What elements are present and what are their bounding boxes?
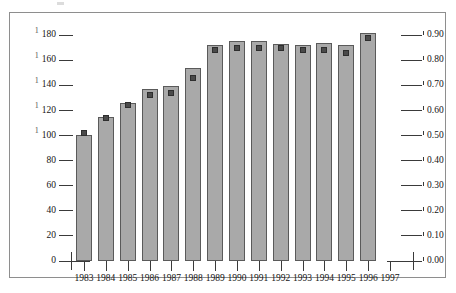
x-axis-tick-label: 1983	[74, 274, 93, 284]
y-axis-right-tick-label: 0.40	[427, 156, 444, 166]
y-axis-right-tick-label: 0.50	[427, 131, 444, 141]
data-point-marker	[365, 35, 371, 41]
y-axis-right-tick-mark	[401, 110, 422, 111]
y-axis-left-tick-label: 100	[42, 131, 56, 141]
y-axis-right-tick-mark	[401, 235, 422, 236]
y-axis-right-tick-mark	[401, 60, 422, 61]
x-axis-tick-label: 1994	[315, 274, 334, 284]
bar	[120, 103, 136, 261]
data-point-marker	[343, 50, 349, 56]
y-axis-right-tick-mark	[401, 85, 422, 86]
x-axis-tick-mark	[368, 261, 369, 271]
y-axis-right-tick-label: 0.20	[427, 206, 444, 216]
y-axis-right-tick-nub	[423, 157, 424, 161]
x-axis-tick-mark	[193, 261, 194, 271]
data-point-marker	[168, 90, 174, 96]
bar	[295, 45, 311, 261]
data-point-marker	[190, 75, 196, 81]
y-axis-right-tick-nub	[423, 257, 424, 261]
data-point-marker	[103, 115, 109, 121]
y-axis-left-tick-label: 120	[42, 106, 56, 116]
y-axis-left-tick-label: 0	[51, 256, 56, 266]
bar	[316, 43, 332, 261]
y-axis-left-tick-mark	[59, 235, 73, 236]
bar	[273, 44, 289, 261]
y-axis-right-tick-mark	[401, 135, 422, 136]
y-axis-left-tick-prefix: 1	[35, 27, 39, 35]
y-axis-right-tick-mark	[401, 35, 422, 36]
y-axis-left-tick-mark	[59, 210, 73, 211]
x-axis-tick-mark	[237, 261, 238, 271]
y-axis-right-tick-mark	[401, 160, 422, 161]
y-axis-right-tick-nub	[423, 56, 424, 60]
y-axis-right-tick-nub	[423, 207, 424, 211]
x-axis-tick-mark	[128, 261, 129, 271]
x-axis-tick-mark	[106, 261, 107, 271]
y-axis-right-tick-nub	[423, 232, 424, 236]
y-axis-left-tick-mark	[59, 185, 73, 186]
x-axis-tick-label: 1990	[228, 274, 247, 284]
data-point-marker	[278, 45, 284, 51]
x-axis-tick-label: 1987	[162, 274, 181, 284]
data-point-marker	[125, 102, 131, 108]
x-axis-tick-mark	[346, 261, 347, 271]
y-axis-left-tick-mark	[59, 160, 73, 161]
bar	[251, 41, 267, 261]
x-axis-tick-label: 1992	[271, 274, 290, 284]
y-axis-left-tick-label: 180	[42, 30, 56, 40]
y-axis-left-tick-mark	[59, 35, 73, 36]
y-axis-right-tick-nub	[423, 31, 424, 35]
y-axis-right-tick-nub	[423, 81, 424, 85]
bar	[338, 45, 354, 261]
x-axis-tick-mark	[150, 261, 151, 271]
x-axis-tick-mark	[171, 261, 172, 271]
x-axis-tick-mark	[259, 261, 260, 271]
y-axis-left-tick-mark	[59, 60, 73, 61]
x-axis-tick-mark	[84, 261, 85, 271]
y-axis-left-tick-prefix: 1	[35, 127, 39, 135]
x-axis-tick-mark	[303, 261, 304, 271]
y-axis-left-tick-mark	[59, 135, 73, 136]
y-axis-right-tick-label: 0.00	[427, 256, 444, 266]
y-axis-right-tick-mark	[401, 210, 422, 211]
y-axis-right-tick-label: 0.70	[427, 80, 444, 90]
chart-frame: 020406080110011201140116011800.000.100.2…	[9, 12, 446, 278]
x-axis-tick-mark	[281, 261, 282, 271]
bar	[229, 41, 245, 261]
data-point-marker	[147, 92, 153, 98]
bar	[163, 86, 179, 261]
data-point-marker	[81, 130, 87, 136]
x-axis-tick-label: 1989	[206, 274, 225, 284]
y-axis-right-tick-label: 0.60	[427, 106, 444, 116]
x-axis-tick-label: 1985	[118, 274, 137, 284]
y-axis-right-tick-label: 0.30	[427, 181, 444, 191]
y-axis-right-tick-mark	[401, 185, 422, 186]
x-axis-tick-mark	[324, 261, 325, 271]
y-axis-left-tick-mark	[59, 110, 73, 111]
bar	[76, 135, 92, 261]
y-axis-right-tick-nub	[423, 131, 424, 135]
y-axis-right-tick-nub	[423, 106, 424, 110]
y-axis-right-tick-label: 0.80	[427, 55, 444, 65]
data-point-marker	[321, 47, 327, 53]
x-axis-tick-label: 1986	[140, 274, 159, 284]
x-axis-tick-label: 1993	[293, 274, 312, 284]
x-axis-tick-label: 1996	[359, 274, 378, 284]
data-point-marker	[212, 47, 218, 53]
y-axis-left-tick-mark	[59, 85, 73, 86]
data-point-marker	[300, 47, 306, 53]
x-axis-tick-mark	[390, 261, 391, 271]
y-axis-left-tick-prefix: 1	[35, 77, 39, 85]
y-axis-left-tick-label: 20	[47, 231, 57, 241]
bar	[360, 33, 376, 262]
x-axis-tick-mark	[215, 261, 216, 271]
y-axis-right-tick-label: 0.90	[427, 30, 444, 40]
image-artifact-speck	[57, 2, 64, 5]
y-axis-left-tick-label: 60	[47, 181, 57, 191]
y-axis-left-tick-label: 160	[42, 55, 56, 65]
x-axis-tick-label: 1995	[337, 274, 356, 284]
x-axis-tick-label: 1988	[184, 274, 203, 284]
data-point-marker	[234, 45, 240, 51]
bar	[207, 45, 223, 261]
y-axis-right-tick-nub	[423, 182, 424, 186]
